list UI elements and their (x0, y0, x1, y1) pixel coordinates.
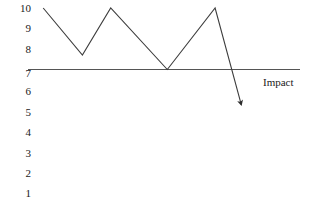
impact-axis-label: Impact (263, 77, 294, 88)
y-tick-label-4: 4 (5, 127, 31, 138)
y-tick-label-6: 6 (5, 86, 31, 97)
y-tick-label-2: 2 (5, 168, 31, 179)
chart-canvas: 10 9 8 7 6 5 4 3 2 1 Impact (0, 0, 313, 207)
impact-trend-line (43, 8, 241, 104)
y-tick-label-3: 3 (5, 148, 31, 159)
y-tick-label-5: 5 (5, 107, 31, 118)
y-tick-label-9: 9 (5, 23, 31, 34)
y-tick-label-10: 10 (5, 3, 31, 14)
chart-plot-area (0, 0, 313, 207)
y-tick-label-7: 7 (5, 68, 31, 79)
y-tick-label-1: 1 (5, 188, 31, 199)
y-tick-label-8: 8 (5, 44, 31, 55)
